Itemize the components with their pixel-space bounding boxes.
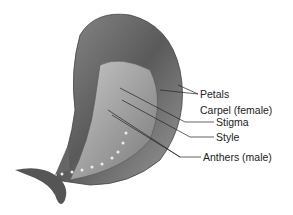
label-style: Style [216,131,239,143]
label-carpel: Carpel (female) [200,104,272,116]
label-stigma: Stigma [216,116,249,128]
label-petals: Petals [200,88,229,100]
flower-diagram: Petals Carpel (female) Stigma Style Anth… [0,0,293,215]
label-anthers: Anthers (male) [203,151,272,163]
sepal-tip [55,145,70,175]
